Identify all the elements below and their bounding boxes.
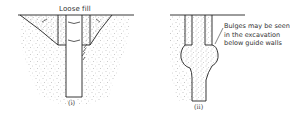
guide-wall-right-ii <box>205 15 212 45</box>
bulges-note-line-3: below guide walls <box>224 39 290 48</box>
figure-i <box>18 15 134 104</box>
guide-wall-left-ii <box>185 15 192 45</box>
leader-line <box>215 28 223 44</box>
figure-i-caption: (i) <box>68 99 75 107</box>
bulges-note-line-2: in the excavation <box>224 31 290 40</box>
guide-wall-left-i <box>58 15 66 45</box>
trench-panel-i <box>66 15 82 97</box>
figure-ii-caption: (ii) <box>194 103 203 111</box>
bulges-note-line-1: Bulges may be seen <box>224 22 290 31</box>
diagram-canvas <box>0 0 296 115</box>
guide-wall-right-i <box>82 15 90 45</box>
loose-fill-label: Loose fill <box>59 5 91 13</box>
bulges-note: Bulges may be seen in the excavation bel… <box>224 22 290 48</box>
